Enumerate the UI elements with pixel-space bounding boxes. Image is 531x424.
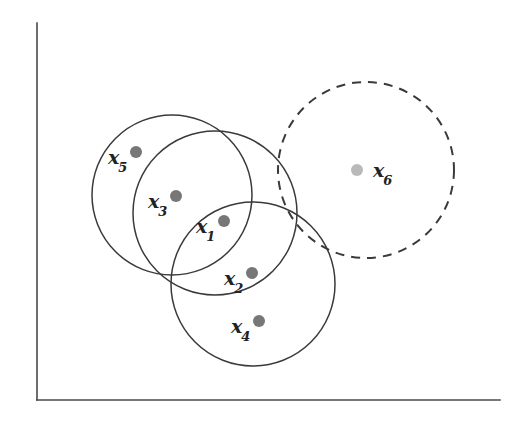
- data-point-x5: [130, 146, 142, 158]
- label-subscript: 5: [118, 160, 127, 175]
- figure-canvas: x1x2x3x4x5x6: [0, 0, 531, 424]
- point-label-x4: x4: [231, 317, 251, 340]
- axes-group: [37, 23, 500, 400]
- data-point-x4: [253, 315, 265, 327]
- data-point-x2: [246, 267, 258, 279]
- data-points-group: [130, 146, 363, 327]
- data-point-x3: [170, 190, 182, 202]
- circle-around-x6: [278, 82, 454, 258]
- label-subscript: 1: [206, 229, 215, 244]
- point-label-x3: x3: [148, 192, 168, 215]
- point-label-x6: x6: [373, 161, 393, 184]
- scatter-plot-svg: [0, 0, 531, 424]
- label-subscript: 4: [241, 329, 250, 344]
- point-label-x2: x2: [224, 269, 244, 292]
- label-subscript: 3: [158, 204, 167, 219]
- data-point-x1: [218, 215, 230, 227]
- label-subscript: 2: [234, 281, 243, 296]
- label-subscript: 6: [383, 173, 392, 188]
- neighborhood-circles-group: [92, 82, 454, 366]
- data-point-x6: [351, 164, 363, 176]
- point-label-x5: x5: [108, 148, 128, 171]
- point-label-x1: x1: [196, 217, 216, 240]
